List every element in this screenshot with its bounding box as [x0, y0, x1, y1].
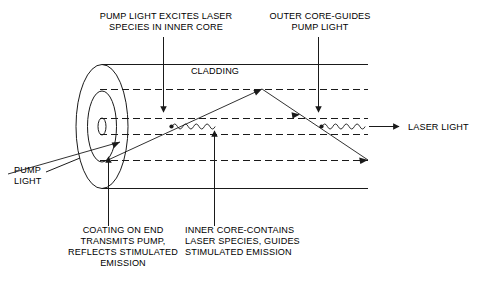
label-coating-line-4: EMISSION [100, 258, 146, 268]
pump-ray-segment-down [262, 89, 368, 160]
label-outer-core-line-1: OUTER CORE-GUIDES [269, 11, 370, 21]
ray-paths [8, 89, 399, 174]
label-outer-core-line-2: PUMP LIGHT [292, 22, 349, 32]
label-coating-line-1: COATING ON END [83, 225, 164, 235]
label-coating-line-3: REFLECTS STIMULATED [68, 247, 178, 257]
outer-core-end-face-ellipse [88, 91, 117, 162]
label-pump-light-line-1: PUMP [14, 165, 41, 175]
leader-pump-light [46, 158, 80, 172]
text-labels: PUMP LIGHT EXCITES LASER SPECIES IN INNE… [14, 11, 469, 268]
label-inner-core-line-1: INNER CORE-CONTAINS [185, 225, 294, 235]
label-inner-core-line-2: LASER SPECIES, GUIDES [185, 236, 300, 246]
inner-core-end-face-ellipse [98, 118, 106, 135]
label-laser-light: LASER LIGHT [408, 122, 469, 132]
stimulated-emission-wave-left [172, 124, 215, 129]
stimulated-emission-wave-right [322, 124, 365, 129]
label-pump-excites-line-1: PUMP LIGHT EXCITES LASER [100, 11, 233, 21]
label-cladding: CLADDING [191, 66, 239, 76]
label-coating-line-2: TRANSMITS PUMP, [81, 236, 166, 246]
leader-lines [46, 37, 319, 226]
fiber-body [76, 65, 368, 189]
label-inner-core-line-3: STIMULATED EMISSION [185, 247, 292, 257]
pump-ray-arrowhead [112, 142, 120, 148]
pump-ray-up-arrowhead [253, 89, 262, 96]
diagram-canvas: PUMP LIGHT EXCITES LASER SPECIES IN INNE… [0, 0, 491, 285]
fiber-laser-diagram: PUMP LIGHT EXCITES LASER SPECIES IN INNE… [0, 0, 491, 285]
cladding-end-face-ellipse [76, 65, 128, 189]
label-pump-excites-line-2: SPECIES IN INNER CORE [109, 22, 223, 32]
label-pump-light-line-2: LIGHT [14, 176, 42, 186]
